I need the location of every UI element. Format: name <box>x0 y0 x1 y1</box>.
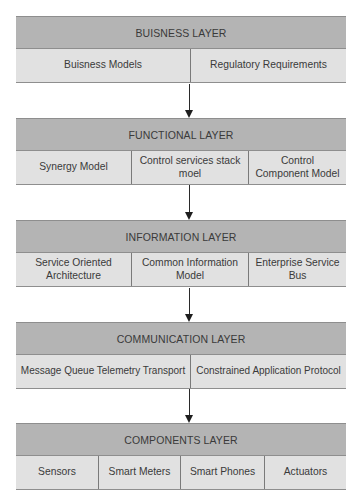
information-layer-title: INFORMATION LAYER <box>16 220 346 253</box>
item-service-oriented-architecture: Service Oriented Architecture <box>16 253 131 286</box>
item-common-information-model: Common Information Model <box>131 253 248 286</box>
item-control-component-model: Control Component Model <box>248 151 346 184</box>
arrow-line-2 <box>189 185 190 212</box>
arrow-down-icon <box>185 212 193 220</box>
functional-layer-title: FUNCTIONAL LAYER <box>16 118 346 151</box>
components-layer-title: COMPONENTS LAYER <box>16 423 346 456</box>
item-synergy-model: Synergy Model <box>16 151 131 184</box>
communication-layer-items: Message Queue Telemetry Transport Constr… <box>16 355 346 389</box>
item-actuators: Actuators <box>264 456 346 489</box>
arrow-down-icon <box>185 314 193 322</box>
business-layer-items: Buisness Models Regulatory Requirements <box>16 49 346 83</box>
arrow-line-3 <box>189 288 190 314</box>
business-layer-title: BUISNESS LAYER <box>16 16 346 49</box>
item-enterprise-service-bus: Enterprise Service Bus <box>248 253 346 286</box>
arrow-line-1 <box>189 84 190 110</box>
item-sensors: Sensors <box>16 456 98 489</box>
item-coap: Constrained Application Protocol <box>190 355 346 388</box>
communication-layer: COMMUNICATION LAYER Message Queue Teleme… <box>16 322 346 389</box>
item-mqtt: Message Queue Telemetry Transport <box>16 355 190 388</box>
item-regulatory-requirements: Regulatory Requirements <box>190 49 346 82</box>
business-layer: BUISNESS LAYER Buisness Models Regulator… <box>16 16 346 83</box>
item-smart-meters: Smart Meters <box>98 456 180 489</box>
item-smart-phones: Smart Phones <box>180 456 264 489</box>
item-business-models: Buisness Models <box>16 49 190 82</box>
functional-layer: FUNCTIONAL LAYER Synergy Model Control s… <box>16 118 346 185</box>
functional-layer-items: Synergy Model Control services stack moe… <box>16 151 346 185</box>
components-layer: COMPONENTS LAYER Sensors Smart Meters Sm… <box>16 423 346 490</box>
communication-layer-title: COMMUNICATION LAYER <box>16 322 346 355</box>
arrow-down-icon <box>185 110 193 118</box>
arrow-line-4 <box>189 389 190 415</box>
item-control-services-stack-model: Control services stack moel <box>131 151 248 184</box>
information-layer: INFORMATION LAYER Service Oriented Archi… <box>16 220 346 287</box>
components-layer-items: Sensors Smart Meters Smart Phones Actuat… <box>16 456 346 490</box>
information-layer-items: Service Oriented Architecture Common Inf… <box>16 253 346 287</box>
arrow-down-icon <box>185 415 193 423</box>
